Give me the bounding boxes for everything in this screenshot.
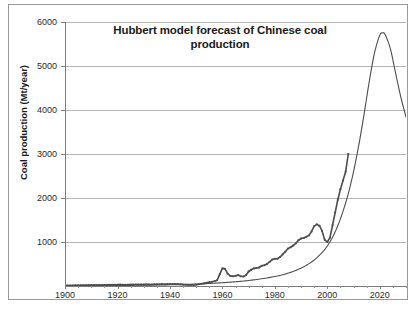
data-point-marker [159,283,161,285]
x-tick-mark-1940 [170,286,171,289]
chart-frame: Hubbert model forecast of Chinese coal p… [8,4,408,300]
x-tick-minor-1975 [262,286,263,288]
data-point-marker [156,283,158,285]
data-point-marker [166,283,168,285]
data-point-marker [284,251,286,253]
historical-data-markers [65,153,349,286]
data-point-marker [177,283,179,285]
y-axis-line [65,22,66,287]
data-point-marker [298,239,300,241]
data-point-marker [332,224,334,226]
data-point-marker [326,241,328,243]
data-point-marker [279,256,281,258]
x-tick-minor-1930 [144,286,145,288]
data-point-marker [334,212,336,214]
y-tick-label-1000: 1000 [23,237,57,247]
y-tick-label-5000: 5000 [23,61,57,71]
data-point-marker [240,275,242,277]
data-point-marker [258,267,260,269]
x-tick-mark-2000 [327,286,328,289]
data-point-marker [211,281,213,283]
y-tick-mark-3000 [61,154,65,155]
x-tick-minor-1950 [196,286,197,288]
data-point-marker [277,258,279,260]
x-tick-minor-1990 [301,286,302,288]
y-tick-label-2000: 2000 [23,193,57,203]
y-tick-label-6000: 6000 [23,17,57,27]
x-tick-minor-1935 [157,286,158,288]
data-point-marker [174,283,176,285]
data-point-marker [303,237,305,239]
x-tick-mark-1920 [118,286,119,289]
data-point-marker [232,275,234,277]
data-point-marker [340,188,342,190]
data-point-marker [219,273,221,275]
y-tick-label-4000: 4000 [23,105,57,115]
x-tick-minor-2015 [367,286,368,288]
data-point-marker [292,245,294,247]
plot-area [65,22,406,286]
data-point-marker [261,265,263,267]
hubbert-forecast-curve [65,33,406,286]
data-point-marker [169,283,171,285]
data-point-marker [282,253,284,255]
data-point-marker [221,268,223,270]
data-point-marker [345,171,347,173]
data-point-marker [295,242,297,244]
y-tick-mark-5000 [61,66,65,67]
y-tick-mark-1000 [61,242,65,243]
data-point-marker [274,258,276,260]
x-tick-minor-1965 [236,286,237,288]
data-point-marker [206,282,208,284]
x-tick-minor-1970 [249,286,250,288]
data-point-marker [337,199,339,201]
y-axis-title: Coal production (Mt/year) [18,33,29,213]
data-point-marker [263,264,265,266]
data-point-marker [248,271,250,273]
x-tick-minor-2025 [393,286,394,288]
data-point-marker [224,268,226,270]
data-point-marker [250,269,252,271]
x-tick-minor-2030 [406,286,407,288]
data-point-marker [311,231,313,233]
data-point-marker [342,180,344,182]
data-point-marker [235,275,237,277]
data-point-marker [229,275,231,277]
data-point-marker [172,283,174,285]
chart-figure: Hubbert model forecast of Chinese coal p… [0,0,417,313]
data-point-marker [208,281,210,283]
data-point-marker [266,263,268,265]
data-point-marker [290,246,292,248]
x-tick-minor-1925 [131,286,132,288]
data-point-marker [214,280,216,282]
data-point-marker [321,230,323,232]
x-tick-label-2000: 2000 [307,290,347,300]
x-tick-minor-2010 [354,286,355,288]
data-point-marker [216,279,218,281]
x-tick-label-1940: 1940 [150,290,190,300]
y-tick-label-3000: 3000 [23,149,57,159]
data-point-marker [245,274,247,276]
data-point-marker [180,283,182,285]
data-point-marker [347,153,349,155]
x-tick-label-1900: 1900 [45,290,85,300]
data-point-marker [201,283,203,285]
data-point-marker [300,238,302,240]
data-point-marker [227,273,229,275]
x-tick-minor-1915 [104,286,105,288]
data-point-marker [329,237,331,239]
data-point-marker [203,282,205,284]
data-point-marker [237,274,239,276]
x-tick-minor-2005 [340,286,341,288]
x-tick-mark-1960 [222,286,223,289]
data-point-marker [164,283,166,285]
data-point-marker [305,236,307,238]
data-point-marker [308,235,310,237]
x-tick-mark-1980 [275,286,276,289]
data-point-marker [316,224,318,226]
data-point-marker [198,283,200,285]
data-point-marker [161,283,163,285]
x-tick-minor-1985 [288,286,289,288]
data-point-marker [242,276,244,278]
data-point-marker [256,267,258,269]
